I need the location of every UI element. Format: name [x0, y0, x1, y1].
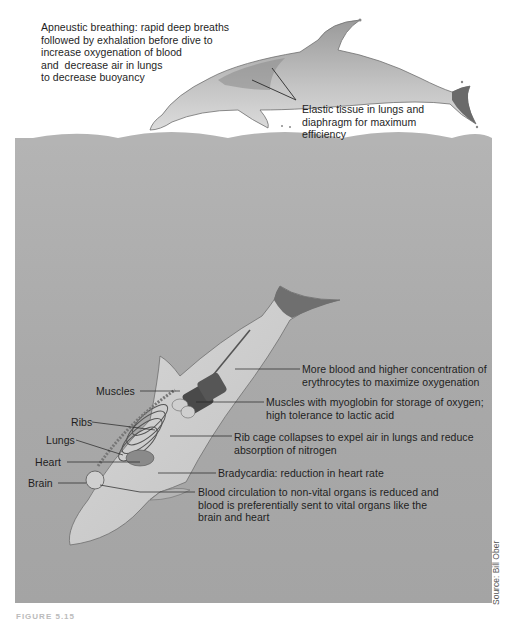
note-blood-circulation: Blood circulation to non-vital organs is… [198, 486, 439, 524]
illustration [0, 0, 507, 621]
note-rib-cage-collapse: Rib cage collapses to expel air in lungs… [234, 431, 474, 456]
label-ribs: Ribs [71, 416, 92, 429]
label-brain: Brain [28, 477, 53, 490]
note-myoglobin: Muscles with myoglobin for storage of ox… [266, 396, 484, 421]
label-muscles: Muscles [96, 385, 135, 398]
label-lungs: Lungs [46, 434, 75, 447]
brain-shape [86, 471, 104, 489]
source-credit: Source: Bill Ober [491, 541, 501, 605]
label-heart: Heart [35, 456, 61, 469]
dolphin-diving-adaptations-figure: Apneustic breathing: rapid deep breaths … [0, 0, 507, 621]
note-blood-erythrocytes: More blood and higher concentration of e… [302, 363, 487, 388]
note-bradycardia: Bradycardia: reduction in heart rate [218, 467, 384, 480]
apneustic-breathing-note: Apneustic breathing: rapid deep breaths … [41, 21, 229, 84]
elastic-tissue-note: Elastic tissue in lungs and diaphragm fo… [302, 103, 424, 141]
heart-shape [126, 450, 154, 466]
figure-caption-cutoff: FIGURE 5.15 [16, 612, 75, 621]
